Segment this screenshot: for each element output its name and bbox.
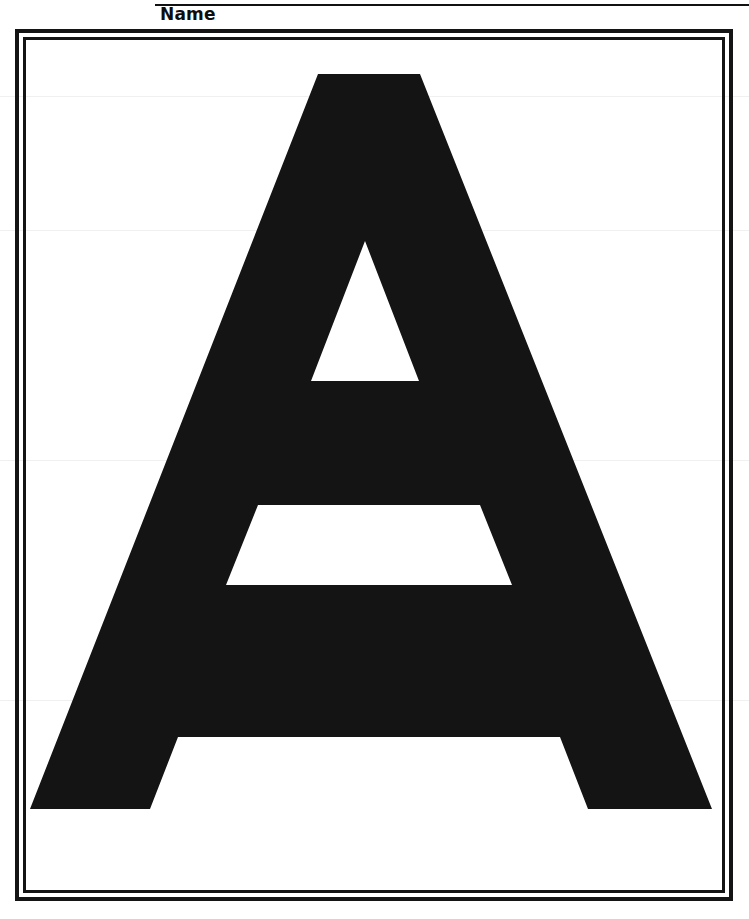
worksheet-page: Name [0, 0, 749, 919]
letter-stage [0, 0, 749, 919]
letter-a-outline-icon [0, 0, 749, 919]
letter-a-shape [30, 74, 712, 809]
